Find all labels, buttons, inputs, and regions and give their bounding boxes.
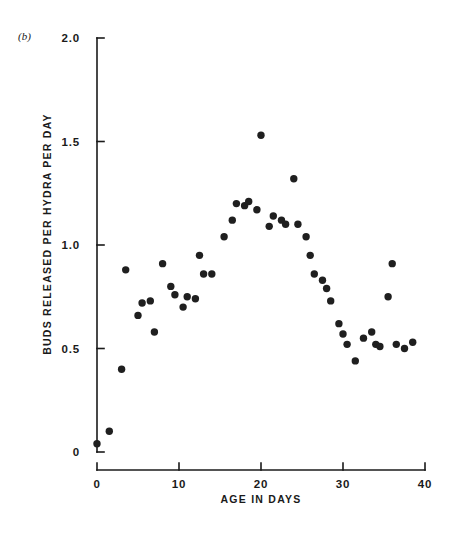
data-point <box>200 270 207 277</box>
data-point <box>389 260 396 267</box>
data-point <box>335 320 342 327</box>
data-point <box>208 270 215 277</box>
data-point <box>270 212 277 219</box>
scatter-plot-canvas <box>0 0 455 534</box>
data-point <box>106 428 113 435</box>
data-point <box>290 175 297 182</box>
data-point <box>138 299 145 306</box>
data-point <box>282 221 289 228</box>
figure-panel-b: (b) BUDS RELEASED PER HYDRA PER DAY AGE … <box>0 0 455 534</box>
data-point <box>302 233 309 240</box>
data-point <box>134 312 141 319</box>
data-point <box>233 200 240 207</box>
data-point <box>159 260 166 267</box>
data-point <box>147 297 154 304</box>
data-point <box>220 233 227 240</box>
data-point <box>339 330 346 337</box>
data-point <box>376 343 383 350</box>
data-point <box>294 221 301 228</box>
data-point <box>307 252 314 259</box>
data-point <box>393 341 400 348</box>
data-point <box>229 216 236 223</box>
data-points <box>93 132 416 448</box>
data-point <box>319 276 326 283</box>
axes <box>97 38 425 470</box>
data-point <box>184 293 191 300</box>
data-point <box>323 285 330 292</box>
data-point <box>151 328 158 335</box>
data-point <box>266 223 273 230</box>
data-point <box>352 357 359 364</box>
data-point <box>118 366 125 373</box>
data-point <box>401 345 408 352</box>
data-point <box>327 297 334 304</box>
data-point <box>192 295 199 302</box>
data-point <box>93 440 100 447</box>
data-point <box>360 334 367 341</box>
data-point <box>384 293 391 300</box>
data-point <box>167 283 174 290</box>
data-point <box>253 206 260 213</box>
data-point <box>409 339 416 346</box>
data-point <box>343 341 350 348</box>
data-point <box>171 291 178 298</box>
data-point <box>122 266 129 273</box>
data-point <box>245 198 252 205</box>
data-point <box>368 328 375 335</box>
data-point <box>179 303 186 310</box>
data-point <box>257 132 264 139</box>
data-point <box>311 270 318 277</box>
data-point <box>196 252 203 259</box>
